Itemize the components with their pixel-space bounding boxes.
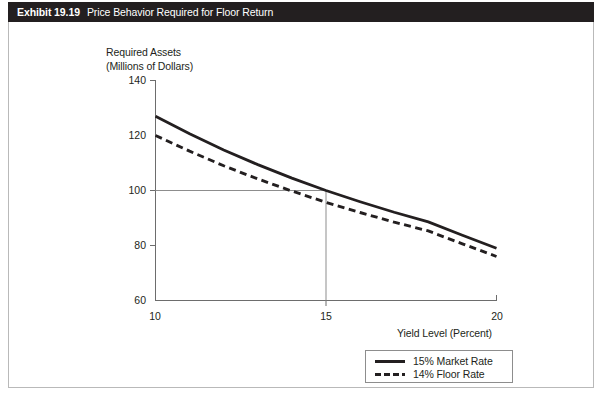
legend-label-market-rate: 15% Market Rate	[413, 355, 493, 367]
legend-dashed-line-icon	[375, 369, 405, 379]
chart-legend: 15% Market Rate 14% Floor Rate	[365, 350, 513, 383]
legend-item-floor-rate: 14% Floor Rate	[375, 367, 485, 381]
legend-solid-line-icon	[375, 356, 405, 366]
chart-canvas	[8, 22, 594, 388]
chart-plot-area: Required Assets (Millions of Dollars) Yi…	[8, 22, 594, 388]
exhibit-title: Price Behavior Required for Floor Return	[87, 6, 273, 18]
legend-label-floor-rate: 14% Floor Rate	[413, 368, 485, 380]
legend-item-market-rate: 15% Market Rate	[375, 354, 493, 368]
exhibit-page: Exhibit 19.19 Price Behavior Required fo…	[0, 0, 604, 403]
exhibit-number: Exhibit 19.19	[17, 6, 80, 18]
exhibit-title-bar: Exhibit 19.19 Price Behavior Required fo…	[8, 2, 594, 22]
